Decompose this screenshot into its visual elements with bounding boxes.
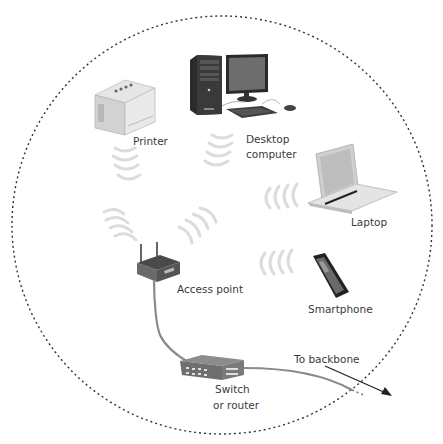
wifi-waves-smartphone: [261, 250, 292, 274]
laptop-icon: [308, 144, 397, 214]
switch-label-line1: Switch: [215, 383, 250, 395]
backbone-label: To backbone: [293, 353, 360, 365]
desktop-label-line1: Desktop: [246, 133, 290, 145]
smartphone-label: Smartphone: [308, 303, 373, 315]
smartphone-icon: [313, 253, 349, 298]
desktop-computer-icon: [190, 54, 296, 118]
switch-label-line2: or router: [213, 399, 260, 411]
switch-router-icon: [180, 355, 244, 380]
wifi-waves-ap-right: [179, 208, 216, 243]
arrowhead-icon: [381, 387, 392, 396]
wifi-waves-ap-left: [104, 209, 136, 240]
access-point-icon: [137, 242, 180, 282]
laptop-label: Laptop: [351, 216, 387, 228]
access-point-label: Access point: [177, 283, 243, 295]
wifi-waves-printer: [113, 148, 140, 179]
backbone-arrow: [325, 366, 386, 393]
cable-backbone-continuation: [352, 390, 366, 396]
network-diagram: Printer Desktop computer Laptop: [0, 0, 443, 444]
wifi-waves-laptop: [266, 184, 297, 208]
printer-label: Printer: [133, 135, 169, 147]
wifi-waves-desktop: [205, 135, 232, 165]
desktop-label-line2: computer: [246, 148, 297, 160]
printer-icon: [95, 80, 155, 135]
